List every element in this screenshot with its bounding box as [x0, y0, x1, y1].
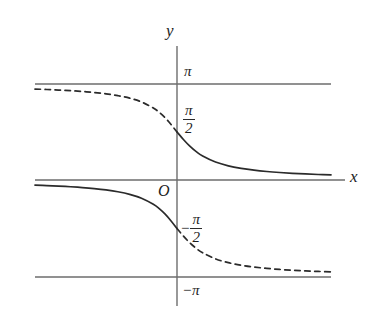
- tick-label-pi: π: [184, 64, 192, 79]
- fraction-denominator: 2: [185, 120, 193, 136]
- curve-lower-branch-solid: [35, 185, 177, 228]
- tick-label-half-pi: π 2: [183, 103, 195, 136]
- fraction-neg-half-pi: π 2: [190, 212, 202, 245]
- fraction-numerator: π: [183, 103, 195, 120]
- fraction-half-pi: π 2: [183, 103, 195, 136]
- curve-upper-branch-dashed: [35, 89, 177, 132]
- fraction-denominator: 2: [192, 229, 200, 245]
- plot-canvas: [0, 0, 369, 324]
- fraction-numerator: π: [190, 212, 202, 229]
- curve-upper-branch-solid: [177, 132, 331, 175]
- origin-label: O: [158, 182, 170, 200]
- tick-label-neg-pi: −π: [182, 283, 200, 298]
- plot-figure: y x O π π 2 − π 2 −π: [0, 0, 369, 324]
- tick-label-neg-half-pi: − π 2: [181, 212, 202, 245]
- x-axis-label: x: [350, 168, 358, 185]
- minus-sign: −: [181, 220, 190, 237]
- y-axis-label: y: [166, 22, 174, 39]
